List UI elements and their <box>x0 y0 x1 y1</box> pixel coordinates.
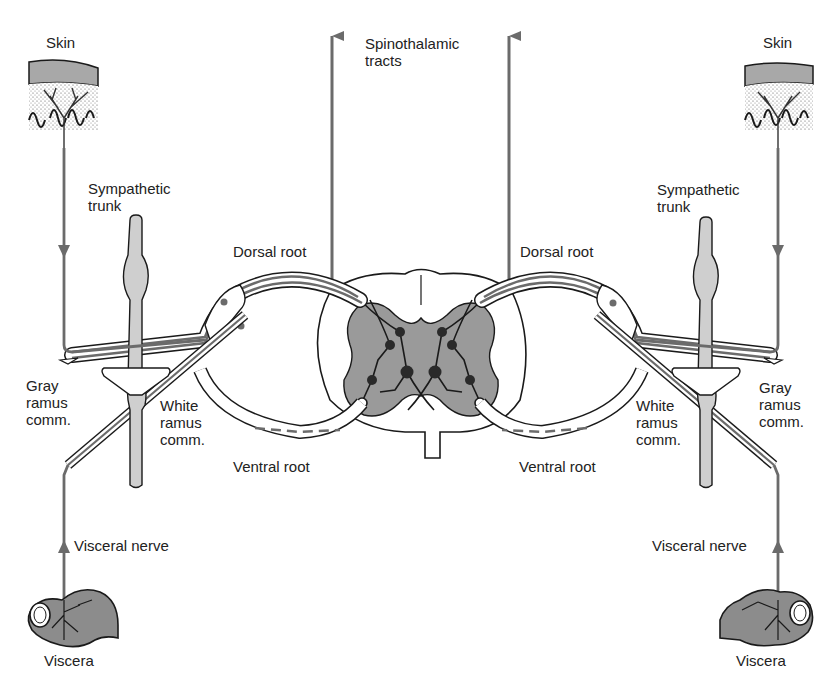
label-gray-ramus-right: Gray ramus comm. <box>759 379 804 430</box>
label-viscera-left: Viscera <box>44 652 94 669</box>
skin-left <box>29 60 98 148</box>
label-skin-left: Skin <box>46 34 75 51</box>
viscera-left <box>28 590 118 647</box>
label-white-ramus-left: White ramus comm. <box>160 397 205 448</box>
visceral-nerve-right <box>772 465 784 600</box>
label-visceral-nerve-right: Visceral nerve <box>652 537 747 554</box>
visceral-nerve-left <box>58 465 70 600</box>
label-gray-ramus-left: Gray ramus comm. <box>26 377 71 428</box>
spinal-reflex-diagram: Spinothalamic tracts Skin Sympathetic tr… <box>0 0 835 689</box>
label-skin-right: Skin <box>763 34 792 51</box>
label-visceral-nerve-left: Visceral nerve <box>74 537 169 554</box>
label-viscera-right: Viscera <box>736 652 786 669</box>
arrow-up-icon <box>58 540 70 553</box>
arrow-down-icon <box>772 245 784 258</box>
skin-right <box>745 63 813 148</box>
label-sympathetic-trunk-right: Sympathetic trunk <box>657 181 740 215</box>
label-dorsal-root-left: Dorsal root <box>233 243 306 260</box>
viscera-right <box>720 590 813 646</box>
label-spinothalamic-tracts: Spinothalamic tracts <box>365 35 459 69</box>
arrow-up-icon <box>772 540 784 553</box>
label-dorsal-root-right: Dorsal root <box>520 243 593 260</box>
diagram-canvas <box>0 0 835 689</box>
label-white-ramus-right: White ramus comm. <box>636 397 681 448</box>
arrow-down-icon <box>58 245 70 258</box>
label-sympathetic-trunk-left: Sympathetic trunk <box>88 180 171 214</box>
label-ventral-root-left: Ventral root <box>233 458 310 475</box>
label-ventral-root-right: Ventral root <box>519 458 596 475</box>
